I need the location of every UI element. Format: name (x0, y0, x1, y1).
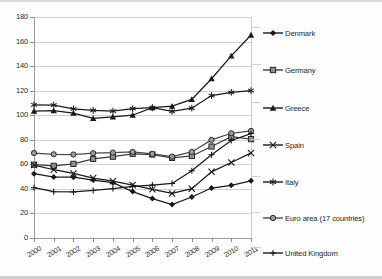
legend-marker-plus-icon (262, 247, 284, 259)
legend-marker-star-icon (262, 176, 284, 188)
data-point-diamond (169, 201, 175, 207)
data-point-plus (70, 189, 76, 195)
data-point-circle (31, 150, 36, 155)
legend-item-germany[interactable]: Germany (262, 64, 316, 76)
data-point-diamond (130, 189, 136, 195)
legend-marker-circle-icon (262, 212, 284, 224)
legend-marker-diamond-icon (262, 27, 284, 39)
y-tick-label: 40 (2, 184, 28, 193)
legend-label: Euro area (17 countries) (285, 214, 365, 223)
x-tick-mark (113, 238, 114, 242)
chart-screenshot: 020406080100120140160180 200020012002200… (0, 0, 382, 279)
series-italy (31, 87, 254, 115)
x-tick-mark (34, 238, 35, 242)
legend-marker-triangle-icon (262, 102, 284, 114)
data-point-circle (71, 152, 76, 157)
data-point-plus (51, 189, 57, 195)
data-point-circle (91, 151, 96, 156)
legend-marker-cross-icon (262, 139, 284, 151)
y-tick-label: 180 (2, 12, 28, 21)
x-axis-line (34, 238, 252, 239)
legend-item-spain[interactable]: Spain (262, 139, 304, 151)
data-point-circle (209, 137, 214, 142)
legend-label: Italy (285, 178, 298, 187)
legend-item-greece[interactable]: Greece (262, 102, 309, 114)
data-point-square (209, 144, 214, 149)
data-point-cross (228, 159, 234, 165)
series-line (34, 35, 251, 118)
legend-row-tick (251, 139, 261, 140)
legend-label: Germany (285, 66, 316, 75)
y-tick-label: 20 (2, 208, 28, 217)
legend-label: Spain (285, 141, 304, 150)
legend-item-euro-area-17-countries[interactable]: Euro area (17 countries) (262, 212, 365, 224)
data-point-plus (110, 186, 116, 192)
data-point-diamond (270, 30, 276, 36)
data-point-triangle (248, 32, 254, 38)
x-tick-mark (73, 238, 74, 242)
x-tick-mark (231, 238, 232, 242)
legend-row-tick (251, 27, 261, 28)
data-point-square (91, 156, 96, 161)
data-point-cross (208, 169, 214, 175)
series-denmark (31, 171, 254, 208)
series-line (34, 91, 251, 112)
series-germany (31, 134, 253, 168)
y-tick-label: 160 (2, 37, 28, 46)
y-tick-label: 60 (2, 159, 28, 168)
data-point-circle (51, 152, 56, 157)
legend-row-tick (251, 212, 261, 213)
y-tick-label: 100 (2, 110, 28, 119)
data-point-diamond (51, 174, 57, 180)
data-point-diamond (189, 194, 195, 200)
data-point-circle (110, 150, 115, 155)
x-tick-mark (93, 238, 94, 242)
y-tick-label: 140 (2, 61, 28, 70)
series-line (34, 134, 251, 192)
legend-item-united-kingdom[interactable]: United Kingdom (262, 247, 338, 259)
scan-edge-top (0, 0, 382, 2)
x-tick-mark (54, 238, 55, 242)
data-point-circle (229, 131, 234, 136)
legend-label: Greece (285, 104, 309, 113)
data-point-circle (189, 149, 194, 154)
series-line (34, 174, 251, 205)
x-tick-mark (192, 238, 193, 242)
series-united-kingdom (31, 131, 254, 195)
data-point-diamond (248, 178, 254, 184)
legend-row-tick (251, 176, 261, 177)
legend-item-italy[interactable]: Italy (262, 176, 298, 188)
data-point-circle (270, 215, 275, 220)
x-tick-mark (152, 238, 153, 242)
x-tick-mark (133, 238, 134, 242)
legend-row-tick (251, 247, 261, 248)
data-series-layer (34, 17, 251, 238)
x-tick-mark (172, 238, 173, 242)
data-point-diamond (209, 185, 215, 191)
data-point-circle (130, 149, 135, 154)
legend-item-denmark[interactable]: Denmark (262, 27, 315, 39)
legend-label: Denmark (285, 29, 315, 38)
data-point-diamond (228, 182, 234, 188)
data-point-plus (270, 250, 276, 256)
data-point-plus (90, 187, 96, 193)
y-tick-label: 0 (2, 233, 28, 242)
y-tick-label: 80 (2, 135, 28, 144)
data-point-square (270, 67, 275, 72)
chart-legend: DenmarkGermanyGreeceSpainItalyEuro area … (262, 24, 380, 260)
series-spain (31, 150, 254, 197)
data-point-circle (150, 151, 155, 156)
data-point-square (71, 161, 76, 166)
y-tick-label: 120 (2, 86, 28, 95)
series-line (34, 137, 251, 166)
legend-row-tick (251, 64, 261, 65)
data-point-diamond (31, 171, 37, 177)
data-point-diamond (149, 196, 155, 202)
legend-marker-square-icon (262, 64, 284, 76)
x-tick-mark (251, 238, 252, 242)
x-tick-mark (212, 238, 213, 242)
legend-row-tick (251, 102, 261, 103)
legend-label: United Kingdom (285, 249, 338, 258)
data-point-circle (169, 154, 174, 159)
